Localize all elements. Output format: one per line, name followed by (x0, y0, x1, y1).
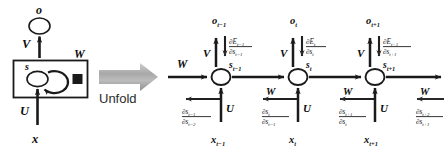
state-label-t+1: st+1 (382, 60, 395, 72)
svg-text:∂st−1: ∂st−1 (262, 118, 276, 127)
svg-text:∂st: ∂st (306, 48, 314, 57)
svg-text:∂st+2: ∂st+2 (416, 108, 430, 117)
weight-w-backward-label-t: W (266, 86, 276, 97)
folded-weight-u-label: U (20, 104, 30, 118)
folded-output-node (29, 18, 50, 34)
folded-weight-v-label: V (22, 37, 32, 51)
weight-v-label-t+1: V (357, 47, 366, 59)
output-label-t: ot (290, 15, 297, 28)
folded-weight-w-label: W (74, 47, 86, 61)
grad-fraction-output-t-1: ∂Et−1 ∂st−1 (229, 38, 252, 57)
svg-text:∂st: ∂st (262, 108, 270, 117)
folded-state-node (27, 71, 48, 86)
grad-fraction-state-tail: ∂st+2 ∂st+1 (416, 108, 443, 127)
svg-text:∂st: ∂st (339, 118, 347, 127)
folded-output-label: o (36, 3, 42, 17)
grad-fraction-state-t-1: ∂st−1 ∂st−2 (182, 108, 211, 127)
unfold-block-arrow (99, 63, 158, 91)
rnn-unfold-figure: o V s W U x Unfold (0, 0, 444, 149)
incoming-weight-w-label: W (177, 58, 188, 70)
input-label-t+1: xt+1 (363, 134, 378, 147)
output-label-t-1: ot−1 (212, 15, 226, 28)
weight-v-label-t-1: V (203, 47, 212, 59)
timestep-group-t: st V ot ∂Et ∂st U xt (262, 15, 326, 147)
state-node-t+1 (366, 69, 385, 85)
svg-text:∂st−1: ∂st−1 (182, 108, 196, 117)
weight-u-label-t+1: U (380, 102, 389, 114)
svg-text:∂Et+1: ∂Et+1 (383, 38, 398, 47)
input-label-t-1: xt−1 (210, 134, 225, 147)
timestep-group-t-1: st−1 V ot−1 ∂Et−1 ∂st−1 (182, 15, 252, 147)
state-label-t: st (305, 60, 312, 72)
svg-text:∂st−2: ∂st−2 (182, 118, 196, 127)
weight-v-label-t: V (280, 47, 289, 59)
svg-text:∂st+1: ∂st+1 (383, 48, 397, 57)
weight-w-backward-label-t+1: W (343, 86, 353, 97)
folded-state-label: s (24, 61, 29, 72)
folded-rnn-group: o V s W U x (14, 3, 88, 146)
unfolded-rnn-group: W st−1 V ot−1 ∂Et−1 (168, 15, 444, 147)
delay-square (73, 75, 82, 84)
svg-text:∂Et−1: ∂Et−1 (229, 38, 244, 47)
state-node-t (289, 69, 308, 85)
unfold-label: Unfold (99, 91, 137, 106)
grad-fraction-state-t: ∂st ∂st−1 (262, 108, 289, 127)
state-label-t-1: st−1 (228, 60, 242, 72)
weight-w-backward-label-tail: W (420, 86, 430, 97)
grad-fraction-state-t+1: ∂st+1 ∂st (339, 108, 366, 127)
folded-input-label: x (31, 132, 38, 146)
grad-fraction-output-t+1: ∂Et+1 ∂st+1 (383, 38, 411, 57)
weight-u-label-t: U (303, 102, 312, 114)
svg-text:∂st+1: ∂st+1 (339, 108, 353, 117)
unfold-transition-group: Unfold (99, 63, 158, 106)
grad-fraction-output-t: ∂Et ∂st (306, 38, 326, 57)
state-node-t-1 (212, 69, 231, 85)
output-label-t+1: ot+1 (366, 15, 380, 28)
timestep-group-t+1: st+1 V ot+1 ∂Et+1 ∂st+1 U xt+1 (339, 15, 411, 147)
input-label-t: xt (288, 134, 296, 147)
svg-text:∂st−1: ∂st−1 (229, 48, 243, 57)
svg-text:∂st+1: ∂st+1 (416, 118, 430, 127)
weight-u-label-t-1: U (226, 102, 235, 114)
svg-text:∂Et: ∂Et (306, 38, 316, 47)
timestep-group-tail: W ∂st+2 ∂st+1 (416, 86, 444, 127)
